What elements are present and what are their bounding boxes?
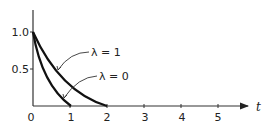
x-tick-label-3: 3 <box>142 111 149 124</box>
x-tick-label-2: 2 <box>104 111 111 124</box>
x-axis-label: t <box>256 100 261 114</box>
x-tick-label-0: 0 <box>28 111 35 124</box>
y-tick-label-0-5: 0.5 <box>12 63 30 76</box>
chart: 1.0 0.5 0 1 2 3 4 5 t λ = 1 λ = 0 <box>0 0 268 127</box>
x-tick-label-1: 1 <box>68 111 75 124</box>
x-tick-label-5: 5 <box>215 111 222 124</box>
annotation-lambda-1: λ = 1 <box>91 46 121 59</box>
leader-line-lambda-1 <box>58 52 89 70</box>
y-tick-label-1-0: 1.0 <box>12 26 30 39</box>
x-tick-label-4: 4 <box>179 111 186 124</box>
annotation-lambda-0: λ = 0 <box>99 70 129 83</box>
